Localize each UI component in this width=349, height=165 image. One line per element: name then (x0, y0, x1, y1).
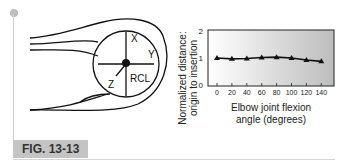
left-rule (13, 14, 14, 140)
y-tick: 2 (199, 27, 204, 36)
axis-label-x: X (131, 33, 138, 44)
x-tick: 20 (228, 89, 236, 96)
rcl-label: RCL (130, 73, 150, 84)
y-tick: 1 (199, 54, 204, 63)
x-tick: 100 (286, 89, 298, 96)
bottom-divider (13, 159, 335, 160)
axis-label-z: Z (108, 79, 114, 90)
axis-label-y: Y (148, 49, 155, 60)
rcl-point-icon (122, 59, 130, 67)
x-tick: 80 (273, 89, 281, 96)
y-axis-label-line1: Normalized distance: (177, 31, 188, 124)
x-tick: 0 (215, 89, 219, 96)
x-axis-label-line2: angle (degrees) (236, 114, 306, 125)
x-axis-label-line1: Elbow joint flexion (231, 102, 311, 113)
flexion-distance-chart: Normalized distance: origin to insertion… (175, 20, 349, 130)
bullet-dot-icon (10, 9, 18, 17)
x-tick: 40 (243, 89, 251, 96)
x-tick: 120 (301, 89, 313, 96)
x-tick: 140 (315, 89, 327, 96)
y-tick: 0 (199, 81, 204, 90)
ligament-diagram: X Y Z RCL (28, 14, 173, 114)
figure-label: FIG. 13-13 (13, 140, 88, 158)
x-tick: 60 (258, 89, 266, 96)
y-axis-label-line2: origin to insertion (188, 40, 199, 116)
